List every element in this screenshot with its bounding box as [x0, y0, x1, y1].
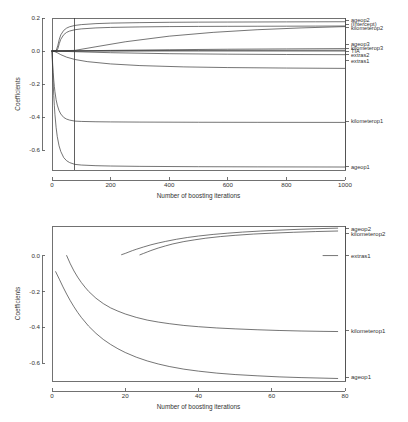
y-axis-tick-label: -0.2 [29, 80, 40, 87]
bottom-chart-svg: 0.0-0.2-0.4-0.6020406080Number of boosti… [0, 211, 408, 422]
x-axis-tick-label: 200 [105, 181, 116, 188]
series-label-ageop1: ageop1 [351, 374, 372, 380]
series-line-kilometerop1 [67, 256, 338, 332]
series-line-ageop3 [52, 27, 345, 51]
x-axis-tick-label: 80 [342, 392, 349, 399]
y-axis-tick-label: -0.2 [29, 288, 40, 295]
x-axis-title: Number of boosting iterations [157, 403, 240, 411]
series-label-ageop1: ageop1 [351, 164, 370, 170]
x-axis-title: Number of boosting iterations [157, 192, 240, 200]
y-axis-tick-label: -0.6 [29, 359, 40, 366]
plot-frame [52, 18, 345, 170]
x-axis-tick-label: 1000 [338, 181, 352, 188]
y-axis-tick-label: 0.0 [31, 252, 40, 259]
plot-frame [52, 226, 345, 381]
y-axis-tick-label: -0.4 [29, 113, 40, 120]
x-axis-tick-label: 800 [281, 181, 292, 188]
series-label-kilometerop2: kilometerop2 [351, 231, 386, 237]
top-chart-panel: 0.20.0-0.2-0.4-0.602004006008001000Numbe… [0, 0, 408, 211]
y-axis-title: Coefficients [14, 77, 21, 110]
x-axis-tick-label: 600 [223, 181, 234, 188]
series-line-ageop1 [56, 272, 338, 379]
x-axis-tick-label: 20 [122, 392, 129, 399]
series-line-extras2 [52, 51, 345, 55]
series-label-extras1: extras1 [351, 58, 369, 64]
series-line-kilometerop2 [140, 231, 338, 255]
chart-page: 0.20.0-0.2-0.4-0.602004006008001000Numbe… [0, 0, 408, 422]
y-axis-title: Coefficients [14, 287, 21, 320]
top-chart-svg: 0.20.0-0.2-0.4-0.602004006008001000Numbe… [0, 0, 408, 211]
x-axis-tick-label: 400 [164, 181, 175, 188]
series-label-extras1: extras1 [351, 253, 371, 259]
y-axis-tick-label: -0.4 [29, 323, 40, 330]
series-line-kilometerop2 [52, 26, 345, 51]
series-label-kilometerop1: kilometerop1 [351, 328, 386, 334]
x-axis-tick-label: 0 [50, 392, 54, 399]
x-axis-tick-label: 60 [268, 392, 275, 399]
y-axis-tick-label: 0.2 [31, 14, 40, 21]
series-line-kilometerop1 [52, 51, 345, 122]
x-axis-tick-label: 0 [50, 181, 54, 188]
x-axis-tick-label: 40 [195, 392, 202, 399]
bottom-chart-panel: 0.0-0.2-0.4-0.6020406080Number of boosti… [0, 211, 408, 422]
series-label-kilometerop1: kilometerop1 [351, 118, 383, 124]
series-label-kilometerop2: kilometerop2 [351, 25, 383, 31]
y-axis-tick-label: 0.0 [31, 47, 40, 54]
y-axis-tick-label: -0.6 [29, 146, 40, 153]
